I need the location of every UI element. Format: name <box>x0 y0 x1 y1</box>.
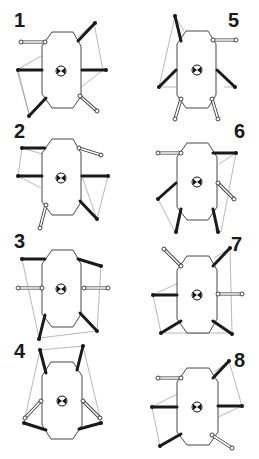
leg-mid-right-stance <box>82 68 108 72</box>
leg-mid-right-swing <box>82 286 110 290</box>
panel-8 <box>150 359 244 450</box>
leg-front-right-stance <box>213 246 232 266</box>
leg-mid-left-stance <box>157 70 176 89</box>
leg-front-left-stance <box>20 257 45 261</box>
leg-mid-right-swing <box>216 181 236 201</box>
panel-1 <box>16 21 108 118</box>
leg-rear-left-swing <box>38 203 48 230</box>
support-polygon <box>80 171 108 219</box>
leg-rear-right-swing <box>210 97 220 121</box>
leg-mid-left-stance <box>16 174 42 178</box>
support-polygon <box>40 346 83 350</box>
support-polygon <box>18 148 41 188</box>
leg-front-left-stance <box>20 146 45 150</box>
gait-diagram-canvas <box>0 0 259 459</box>
body-center-marker <box>192 65 202 75</box>
leg-rear-left-stance <box>27 98 46 118</box>
body-center-marker <box>57 396 67 406</box>
panel-label-5: 5 <box>228 10 239 30</box>
leg-mid-right-swing <box>81 399 102 420</box>
panel-7 <box>151 246 244 336</box>
leg-rear-left-stance <box>174 209 181 234</box>
leg-rear-right-stance <box>213 209 220 234</box>
leg-rear-right-stance <box>80 201 99 221</box>
panel-4 <box>22 344 103 439</box>
leg-front-right-stance <box>78 259 103 268</box>
leg-front-left-swing <box>156 151 183 155</box>
leg-front-right-swing <box>211 38 238 42</box>
leg-front-left-stance <box>173 14 181 41</box>
body-center-marker <box>56 284 66 294</box>
leg-rear-left-stance <box>37 315 45 341</box>
leg-mid-left-stance <box>156 183 176 201</box>
panel-label-2: 2 <box>14 121 25 141</box>
panel-label-1: 1 <box>14 10 25 30</box>
leg-mid-right-stance <box>218 404 244 408</box>
leg-front-left-swing <box>19 40 47 44</box>
leg-front-left-swing <box>156 376 183 380</box>
leg-mid-left-stance <box>16 68 42 72</box>
panel-label-8: 8 <box>234 350 245 370</box>
leg-rear-right-stance <box>213 321 234 336</box>
support-polygon <box>219 153 236 164</box>
leg-front-right-stance <box>77 344 85 370</box>
leg-rear-left-stance <box>158 434 181 448</box>
panel-3 <box>16 250 110 341</box>
leg-mid-left-swing <box>23 399 43 420</box>
leg-front-right-stance <box>213 151 238 155</box>
panel-2 <box>16 139 110 230</box>
leg-mid-right-swing <box>216 292 244 296</box>
leg-rear-right-swing <box>78 94 99 113</box>
body-center-marker <box>192 402 202 412</box>
body-center-marker <box>56 66 66 76</box>
leg-rear-right-stance <box>79 421 103 429</box>
leg-rear-right-stance <box>80 313 99 333</box>
panel-label-3: 3 <box>14 231 25 251</box>
leg-rear-left-swing <box>173 97 183 121</box>
leg-mid-right-stance <box>217 70 237 89</box>
body-center-marker <box>192 177 202 187</box>
body-center-marker <box>192 290 202 300</box>
leg-mid-left-stance <box>151 293 177 297</box>
support-polygon <box>80 23 103 88</box>
panel-5 <box>157 14 238 121</box>
panel-label-4: 4 <box>14 341 25 361</box>
panel-6 <box>156 143 238 234</box>
support-polygon <box>159 16 176 87</box>
leg-mid-left-swing <box>16 286 44 290</box>
leg-front-right-stance <box>213 359 231 378</box>
leg-front-left-stance <box>38 348 46 373</box>
panel-label-7: 7 <box>231 234 242 254</box>
leg-front-right-stance <box>78 21 97 41</box>
panel-label-6: 6 <box>234 121 245 141</box>
body-center-marker <box>56 173 66 183</box>
leg-mid-right-stance <box>82 174 110 178</box>
leg-front-left-swing <box>162 247 183 268</box>
leg-rear-right-swing <box>210 433 234 450</box>
leg-mid-left-stance <box>150 405 177 409</box>
